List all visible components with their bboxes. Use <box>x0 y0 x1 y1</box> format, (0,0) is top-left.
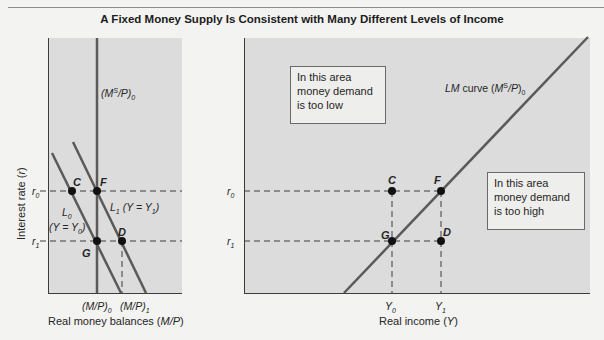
callout-low-line2: money demand <box>297 84 379 98</box>
y-axis-title: Interest rate (r) <box>15 167 27 240</box>
right-x-axis-title: Real income (Y) <box>379 315 458 327</box>
diagram: C F G D C F G D (MS/P)0 L1 (Y = Y1) L0 (… <box>0 0 604 340</box>
label-g-right: G <box>381 229 390 241</box>
mp1-tick: (M/P)1 <box>120 300 150 314</box>
label-d-right: D <box>443 226 451 238</box>
left-panel <box>48 38 182 293</box>
left-x-axis-title: Real money balances (M/P) <box>48 315 184 327</box>
label-f-left: F <box>100 176 107 188</box>
point-c-left <box>68 187 76 195</box>
label-g-left: G <box>82 247 91 259</box>
callout-demand-too-low: In this area money demand is too low <box>290 66 386 124</box>
callout-high-line1: In this area <box>494 176 578 190</box>
r0-tick-right: r0 <box>227 185 235 199</box>
point-d-left <box>118 237 126 245</box>
point-g-left <box>93 237 101 245</box>
r1-tick-right: r1 <box>227 235 235 249</box>
point-d-right <box>437 237 445 245</box>
lm-curve-label: LM curve (MS/P)0 <box>445 82 525 96</box>
callout-low-line3: is too low <box>297 98 379 112</box>
y0-tick: Y0 <box>385 300 396 314</box>
r1-tick-left: r1 <box>32 235 40 249</box>
point-f-left <box>93 187 101 195</box>
callout-high-line2: money demand <box>494 190 578 204</box>
mp0-tick: (M/P)0 <box>82 300 112 314</box>
r0-tick-left: r0 <box>32 185 40 199</box>
callout-demand-too-high: In this area money demand is too high <box>487 172 585 230</box>
y1-tick: Y1 <box>435 300 446 314</box>
callout-low-line1: In this area <box>297 70 379 84</box>
callout-high-line3: is too high <box>494 204 578 218</box>
label-c-right: C <box>388 174 397 186</box>
point-f-right <box>437 187 445 195</box>
label-c-left: C <box>73 176 82 188</box>
supply-curve-label: (MS/P)0 <box>101 87 135 101</box>
label-d-left: D <box>118 226 126 238</box>
label-f-right: F <box>434 174 441 186</box>
point-c-right <box>388 187 396 195</box>
